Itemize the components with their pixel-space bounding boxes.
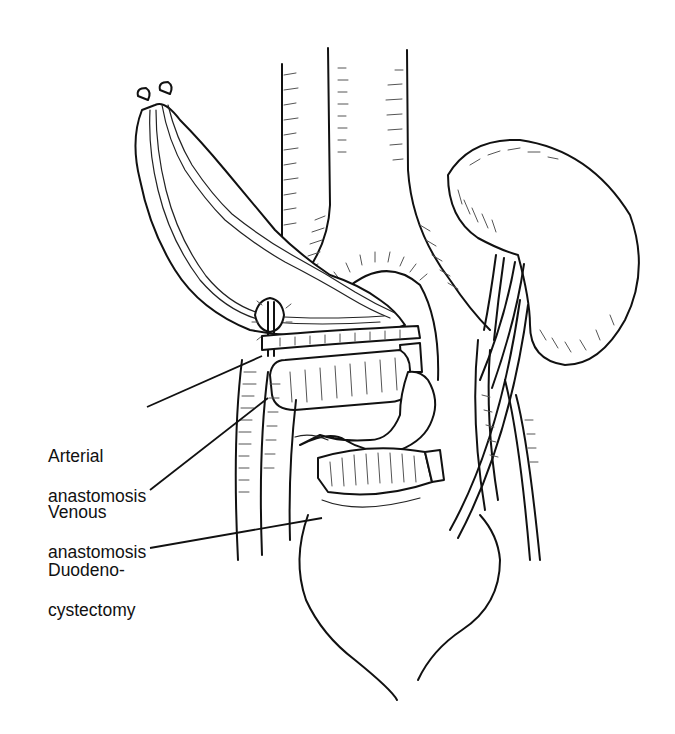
label-line: Duodeno- (48, 560, 136, 580)
bladder (299, 498, 500, 700)
label-line: Arterial (48, 446, 146, 466)
venous-segment (270, 350, 410, 410)
label-line: cystectomy (48, 600, 136, 620)
leader-arterial (147, 356, 262, 407)
label-duodenocystectomy: Duodeno- cystectomy (48, 540, 136, 640)
native-kidney (448, 140, 639, 365)
label-line: Venous (48, 502, 146, 522)
